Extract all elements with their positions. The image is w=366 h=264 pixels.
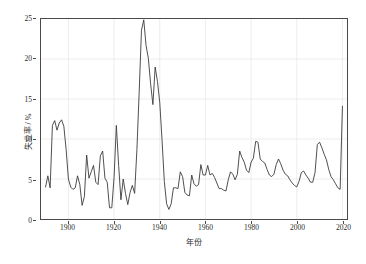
x-axis-label: 年份 (40, 236, 348, 247)
plot-area (40, 18, 348, 220)
data-line-unemployment-rate (41, 19, 347, 219)
x-axis-tick-labels: 1900192019401960198020002020 (40, 221, 348, 235)
y-tick-label: 5 (28, 175, 32, 184)
x-tick-mark (297, 221, 298, 224)
x-tick-label: 1940 (152, 223, 167, 232)
x-tick-mark (68, 221, 69, 224)
x-tick-label: 1960 (198, 223, 213, 232)
y-tick-mark (33, 99, 36, 100)
x-tick-label: 1920 (106, 223, 121, 232)
y-tick-label: 15 (25, 94, 33, 103)
y-tick-label: 10 (25, 135, 33, 144)
x-tick-mark (343, 221, 344, 224)
y-tick-mark (33, 58, 36, 59)
y-tick-label: 25 (25, 14, 33, 23)
y-tick-mark (33, 220, 36, 221)
x-tick-mark (205, 221, 206, 224)
chart-figure: 失业率 / % 年份 0510152025 190019201940196019… (0, 0, 366, 264)
x-tick-label: 1900 (60, 223, 75, 232)
x-tick-mark (114, 221, 115, 224)
x-tick-label: 1980 (244, 223, 259, 232)
x-tick-mark (160, 221, 161, 224)
y-tick-mark (33, 180, 36, 181)
y-axis-tick-labels: 0510152025 (0, 18, 36, 220)
y-tick-mark (33, 18, 36, 19)
x-tick-mark (251, 221, 252, 224)
x-tick-label: 2020 (336, 223, 351, 232)
y-tick-label: 0 (28, 216, 32, 225)
y-tick-label: 20 (25, 54, 33, 63)
x-tick-label: 2000 (290, 223, 305, 232)
y-tick-mark (33, 139, 36, 140)
